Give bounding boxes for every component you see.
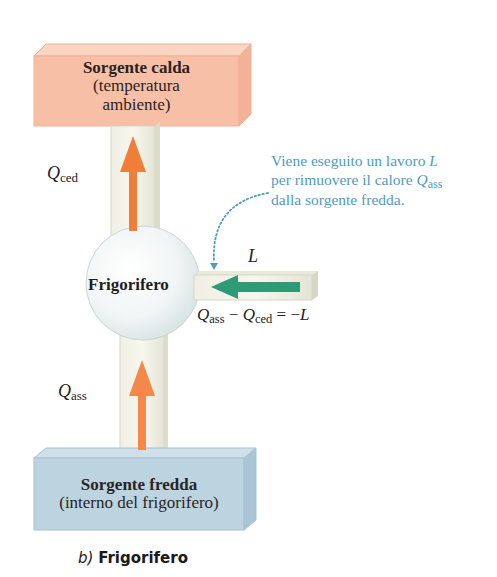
annotation-line-1: Viene eseguito un lavoro L <box>271 152 442 171</box>
engine-label: Frigorifero <box>88 275 169 295</box>
hot-reservoir-subtitle-2: ambiente) <box>34 96 239 114</box>
annotation-line-3: dalla sorgente fredda. <box>271 191 442 210</box>
hot-reservoir-subtitle-1: (temperatura <box>34 77 239 95</box>
annotation-leader-line <box>214 193 268 262</box>
heat-out-subscript: ced <box>60 170 78 185</box>
annotation-heat-subscript: ass <box>428 177 443 191</box>
heat-out-label: Qced <box>47 163 78 186</box>
figure-caption: b) Frigorifero <box>78 549 188 567</box>
equation-work: L <box>300 305 309 324</box>
caption-title: Frigorifero <box>98 549 188 567</box>
annotation-work-symbol: L <box>429 152 438 169</box>
annotation-line-2-text: per rimuovere il calore <box>271 171 416 188</box>
equation-q-abs-sub: ass <box>209 312 224 326</box>
cold-reservoir-title: Sorgente fredda <box>34 476 244 494</box>
annotation-line-1-text: Viene eseguito un lavoro <box>271 152 429 169</box>
work-label: L <box>248 246 258 267</box>
equation-equals: = − <box>272 305 300 324</box>
annotation-arrowhead-icon <box>210 263 218 270</box>
annotation-line-2: per rimuovere il calore Qass <box>271 171 442 191</box>
equation-q-ced: Q <box>243 305 255 324</box>
work-annotation: Viene eseguito un lavoro L per rimuovere… <box>271 152 442 210</box>
cold-reservoir-subtitle: (interno del frigorifero) <box>34 494 244 512</box>
hot-reservoir-title: Sorgente calda <box>34 59 239 77</box>
equation-q-abs: Q <box>197 305 209 324</box>
cold-reservoir-label: Sorgente fredda (interno del frigorifero… <box>34 476 244 513</box>
heat-in-label: Qass <box>58 381 87 404</box>
equation-minus: − <box>225 305 243 324</box>
energy-equation: Qass − Qced = −L <box>197 305 309 327</box>
hot-reservoir-label: Sorgente calda (temperatura ambiente) <box>34 59 239 114</box>
heat-in-subscript: ass <box>71 388 87 403</box>
heat-in-symbol: Q <box>58 381 71 401</box>
heat-out-symbol: Q <box>47 163 60 183</box>
annotation-heat-symbol: Q <box>416 171 427 188</box>
equation-q-ced-sub: ced <box>255 312 272 326</box>
caption-letter: b) <box>78 549 93 567</box>
